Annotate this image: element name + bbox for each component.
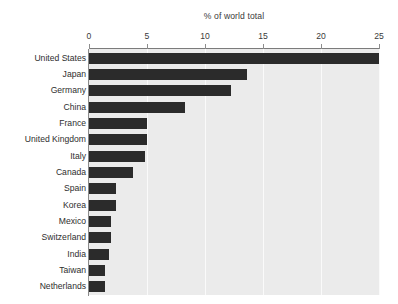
bar bbox=[89, 249, 109, 260]
category-label: Germany bbox=[0, 85, 86, 96]
bar bbox=[89, 151, 145, 162]
bar bbox=[89, 265, 105, 276]
category-label: China bbox=[0, 102, 86, 113]
y-axis-category-labels: United StatesJapanGermanyChinaFranceUnit… bbox=[0, 49, 86, 295]
bar bbox=[89, 69, 247, 80]
x-tick-label: 5 bbox=[145, 31, 150, 41]
category-label: Mexico bbox=[0, 216, 86, 227]
category-label: India bbox=[0, 249, 86, 260]
bar bbox=[89, 200, 116, 211]
bar bbox=[89, 183, 116, 194]
category-label: Switzerland bbox=[0, 232, 86, 243]
bar bbox=[89, 232, 111, 243]
bar bbox=[89, 281, 105, 292]
bars-group bbox=[89, 49, 379, 295]
x-tick-label: 25 bbox=[374, 31, 384, 41]
category-label: Japan bbox=[0, 69, 86, 80]
chart-title: % of world total bbox=[89, 11, 379, 21]
category-label: United States bbox=[0, 53, 86, 64]
x-tick-label: 15 bbox=[258, 31, 268, 41]
bar bbox=[89, 216, 111, 227]
category-label: Taiwan bbox=[0, 265, 86, 276]
x-axis-ticks: 0510152025 bbox=[89, 28, 379, 49]
category-label: Italy bbox=[0, 151, 86, 162]
bar bbox=[89, 102, 185, 113]
category-label: Korea bbox=[0, 200, 86, 211]
x-tick-mark bbox=[263, 44, 264, 49]
bar bbox=[89, 118, 147, 129]
category-label: Canada bbox=[0, 167, 86, 178]
category-label: United Kingdom bbox=[0, 134, 86, 145]
x-tick-label: 0 bbox=[87, 31, 92, 41]
category-label: Spain bbox=[0, 183, 86, 194]
bar bbox=[89, 53, 379, 64]
x-tick-label: 20 bbox=[316, 31, 326, 41]
bar bbox=[89, 85, 231, 96]
bar bbox=[89, 134, 147, 145]
bar-chart: % of world total 0510152025 United State… bbox=[0, 0, 398, 304]
bar bbox=[89, 167, 133, 178]
gridline bbox=[379, 49, 380, 295]
x-tick-label: 10 bbox=[200, 31, 210, 41]
x-tick-mark bbox=[147, 44, 148, 49]
x-tick-mark bbox=[205, 44, 206, 49]
category-label: Netherlands bbox=[0, 281, 86, 292]
x-tick-mark bbox=[321, 44, 322, 49]
category-label: France bbox=[0, 118, 86, 129]
x-tick-mark bbox=[89, 44, 90, 49]
x-tick-mark bbox=[379, 44, 380, 49]
